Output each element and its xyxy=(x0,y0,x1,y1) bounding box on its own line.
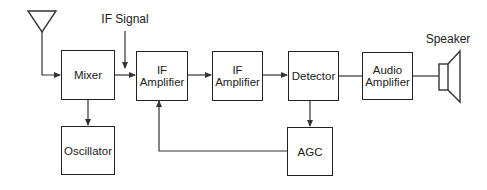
antenna-to-mixer-arrow xyxy=(42,32,60,75)
mixer-block: Mixer xyxy=(61,50,115,100)
speaker-icon xyxy=(439,51,460,102)
if-amplifier-2-label-line2: Amplifier xyxy=(215,76,260,88)
if-amplifier-2-label-line1: IF xyxy=(232,64,242,76)
audio-amplifier-block: Audio Amplifier xyxy=(362,52,413,100)
oscillator-label: Oscillator xyxy=(64,145,112,157)
detector-block: Detector xyxy=(288,51,339,101)
if-amplifier-2-block: IF Amplifier xyxy=(212,51,263,101)
if-amplifier-1-label-line1: IF xyxy=(157,64,167,76)
agc-label: AGC xyxy=(298,146,323,158)
detector-label: Detector xyxy=(292,70,335,82)
audio-amplifier-label-line2: Amplifier xyxy=(365,76,410,88)
speaker-label: Speaker xyxy=(426,32,471,46)
if-signal-label: IF Signal xyxy=(101,12,148,26)
if-amplifier-1-block: IF Amplifier xyxy=(136,51,188,101)
agc-block: AGC xyxy=(287,127,333,176)
oscillator-block: Oscillator xyxy=(61,126,115,175)
if-amplifier-1-label-line2: Amplifier xyxy=(140,76,185,88)
mixer-label: Mixer xyxy=(74,69,102,81)
agc-to-if-amp-1-arrow xyxy=(159,101,287,151)
audio-amplifier-label-line1: Audio xyxy=(373,64,402,76)
antenna-icon xyxy=(28,11,56,32)
